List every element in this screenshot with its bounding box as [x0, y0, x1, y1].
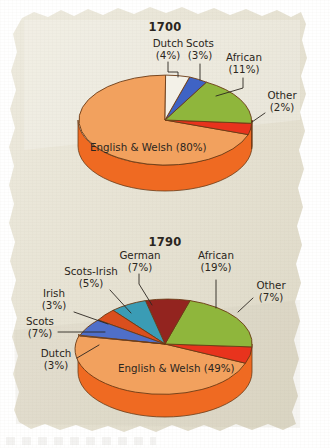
pie-chart-1790: 1790	[0, 222, 330, 444]
pie-chart-1700: 1700	[0, 4, 330, 222]
label-scots-irish-1790: Scots-Irish (5%)	[55, 266, 127, 289]
label-scots-1790: Scots (7%)	[18, 316, 62, 339]
label-other-1700: Other (2%)	[261, 90, 303, 113]
label-african-1790: African (19%)	[186, 250, 246, 273]
label-other-1790: Other (7%)	[249, 280, 293, 303]
label-african-1700: African (11%)	[218, 52, 270, 75]
label-irish-1790: Irish (3%)	[32, 288, 76, 311]
figure-root: 1700	[0, 0, 330, 448]
label-dutch-1790: Dutch (3%)	[33, 348, 79, 371]
label-english-welsh-1790: English & Welsh (49%)	[118, 362, 228, 374]
page-bottom-smudge	[6, 437, 156, 445]
label-english-welsh-1700: English & Welsh (80%)	[90, 141, 200, 153]
label-scots-1700: Scots (3%)	[178, 38, 222, 61]
